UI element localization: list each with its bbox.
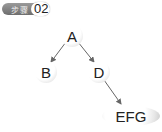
- edge-d-efg: [104, 80, 121, 104]
- tree-node-b: B: [35, 61, 57, 83]
- node-label: EFG: [116, 108, 147, 125]
- tree-node-a: A: [61, 25, 83, 47]
- edge-a-d: [78, 42, 94, 62]
- tree-node-d: D: [88, 61, 110, 83]
- edge-a-b: [51, 42, 66, 62]
- tree-node-efg: EFG: [102, 106, 160, 126]
- node-label: A: [67, 28, 77, 45]
- node-label: B: [41, 64, 51, 81]
- node-label: D: [94, 64, 105, 81]
